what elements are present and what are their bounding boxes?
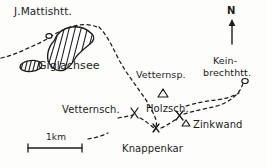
label-north: N [227, 6, 235, 17]
trail-junction-vetternscharte [131, 108, 138, 118]
label-vetternspitze: Vetternsp. [136, 70, 186, 80]
label-mattishuette: J.Mattishtt. [14, 6, 72, 17]
hut-marker-keinprechthuette [242, 79, 248, 84]
peak-marker-vetternspitze [158, 89, 168, 97]
trail-west-approach [1, 39, 47, 58]
sketch-map-canvas: J.Mattishtt. Giglachsee Vetternsp. Kein-… [0, 0, 267, 168]
trail-knappenkar-to-holzscharte [161, 118, 178, 128]
label-keinprechthuette-line1: Kein- [213, 56, 237, 67]
peak-marker-zinkwand [182, 120, 190, 126]
label-holzscharte: Holzsch. [146, 104, 189, 115]
trail-holzscharte-to-keinprecht [184, 83, 243, 114]
hut-marker-mattishuette [46, 34, 52, 39]
trail-vetternscharte-to-knappenkar [140, 118, 154, 128]
north-arrow [229, 19, 236, 44]
label-vetternscharte: Vetternsch. [62, 105, 120, 116]
label-keinprechthuette-line2: brechthtt. [203, 68, 251, 79]
trail-southwest-fragment [88, 133, 108, 139]
label-zinkwand: Zinkwand [193, 120, 243, 131]
scale-bar [28, 144, 82, 152]
north-arrow-head [229, 19, 236, 26]
label-scale-distance: 1km [46, 133, 66, 142]
label-knappenkar: Knappenkar [122, 144, 183, 155]
label-giglachsee: Giglachsee [38, 60, 100, 72]
